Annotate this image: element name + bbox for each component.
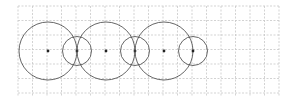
center-dot [47,50,50,53]
center-dot [163,50,166,53]
center-dot [105,50,108,53]
circle-grid-diagram [0,0,296,107]
grid-lines [18,6,279,97]
center-dot [192,50,195,53]
